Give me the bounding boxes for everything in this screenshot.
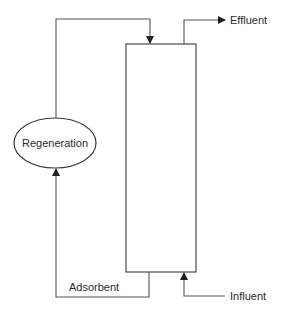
adsorption-column	[126, 44, 196, 272]
adsorbent-label: Adsorbent	[69, 281, 119, 293]
regenerated-adsorbent-line	[56, 19, 150, 118]
regeneration-node: Regeneration	[14, 118, 96, 168]
effluent-line	[184, 20, 225, 44]
effluent-label: Effluent	[230, 14, 267, 26]
adsorption-diagram: Regeneration Effluent Adsorbent Influent	[0, 0, 284, 312]
influent-line	[184, 273, 225, 296]
influent-label: Influent	[230, 290, 266, 302]
spent-adsorbent-line	[56, 169, 149, 297]
regeneration-label: Regeneration	[22, 137, 88, 149]
